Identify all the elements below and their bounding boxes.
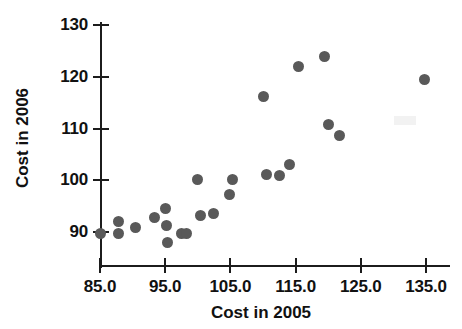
scatter-point xyxy=(195,210,206,221)
x-axis-tick-label: 95.0 xyxy=(149,277,181,297)
y-axis-tick-label: 130 xyxy=(60,15,88,35)
scatter-point xyxy=(113,216,124,227)
x-axis-tick-label: 125.0 xyxy=(340,277,382,297)
scatter-point xyxy=(130,222,141,233)
y-axis-tick xyxy=(93,179,109,181)
scatter-point xyxy=(160,203,171,214)
y-axis-tick xyxy=(93,76,109,78)
scatter-point xyxy=(192,174,203,185)
x-axis-tick-label: 115.0 xyxy=(275,277,316,297)
scatter-chart: 85.095.0105.0115.0125.0135.0 90100110120… xyxy=(0,0,462,329)
scatter-point xyxy=(261,169,272,180)
y-axis-tick-label: 100 xyxy=(60,170,88,190)
scatter-point xyxy=(419,74,430,85)
scatter-point xyxy=(227,174,238,185)
x-axis-tick xyxy=(99,258,101,273)
scatter-point xyxy=(149,212,160,223)
scatter-point xyxy=(334,130,345,141)
scatter-point xyxy=(293,61,304,72)
scatter-point xyxy=(208,208,219,219)
scatter-point xyxy=(113,228,124,239)
y-axis-tick-label: 120 xyxy=(60,67,88,87)
x-axis-tick xyxy=(295,258,297,273)
scatter-point xyxy=(323,119,334,130)
scan-artifact xyxy=(394,116,416,125)
scatter-point xyxy=(162,237,173,248)
y-axis-tick xyxy=(93,128,109,130)
y-axis-title: Cost in 2006 xyxy=(13,63,33,213)
scatter-point xyxy=(224,189,235,200)
y-axis-tick-label: 110 xyxy=(61,119,88,139)
y-axis-tick-label: 90 xyxy=(69,222,88,242)
scatter-point xyxy=(176,228,187,239)
x-axis-tick xyxy=(164,258,166,273)
y-axis-tick xyxy=(93,24,109,26)
scatter-point xyxy=(284,159,295,170)
x-axis-tick-label: 85.0 xyxy=(84,277,116,297)
scatter-point xyxy=(319,51,330,62)
y-axis-tick xyxy=(93,231,109,233)
x-axis-tick xyxy=(229,258,231,273)
scatter-point xyxy=(161,220,172,231)
x-axis-tick-label: 105.0 xyxy=(210,277,252,297)
scatter-point xyxy=(181,228,192,239)
x-axis-line xyxy=(100,265,450,267)
scatter-point xyxy=(258,91,269,102)
x-axis-tick-label: 135.0 xyxy=(405,277,447,297)
x-axis-tick xyxy=(360,258,362,273)
x-axis-tick xyxy=(425,258,427,273)
x-axis-title: Cost in 2005 xyxy=(0,303,462,323)
scatter-point xyxy=(274,170,285,181)
